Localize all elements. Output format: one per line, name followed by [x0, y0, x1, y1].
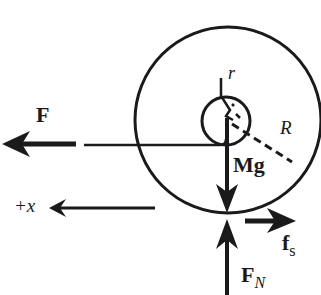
normal-force-label-main: F [241, 262, 254, 287]
weight-label: Mg [233, 154, 265, 176]
normal-force-label-sub: N [254, 274, 265, 291]
normal-force-label: FN [241, 264, 265, 286]
force-f-label: F [36, 104, 49, 126]
free-body-diagram: F r R Mg +x fs FN [0, 0, 321, 295]
inner-radius-label: r [228, 64, 235, 82]
rope-line [84, 139, 226, 145]
outer-radius-label: R [280, 118, 292, 137]
inner-radius-tick [232, 104, 240, 118]
friction-label-sub: s [289, 242, 295, 259]
diagram-graphics [0, 0, 321, 295]
friction-label: fs [282, 232, 296, 254]
axis-label: +x [14, 196, 35, 215]
